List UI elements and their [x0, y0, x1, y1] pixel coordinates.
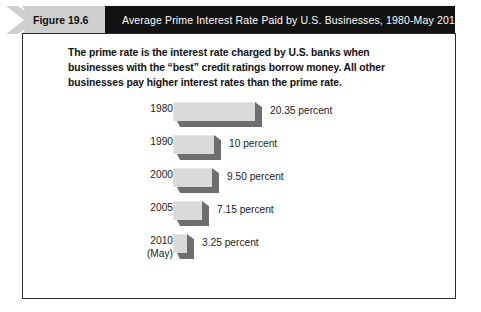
figure-container: Average Prime Interest Rate Paid by U.S.… [0, 0, 481, 312]
row-year-line1: 2010 [150, 235, 173, 246]
intro-paragraph: The prime rate is the interest rate char… [68, 45, 416, 91]
row-year-line2: (May) [113, 247, 173, 260]
bar-bottom-face [177, 253, 194, 259]
row-value-label: 10 percent [229, 138, 277, 149]
row-value-label: 9.50 percent [227, 171, 284, 182]
figure-header: Average Prime Interest Rate Paid by U.S.… [0, 6, 481, 34]
figure-tag-label: Figure 19.6 [33, 6, 88, 34]
bar-side-face [202, 201, 209, 220]
bar-graphic [173, 234, 194, 260]
figure-title: Average Prime Interest Rate Paid by U.S.… [122, 6, 461, 34]
row-year-line1: 1980 [150, 103, 173, 114]
bar-graphic [173, 201, 209, 227]
row-year-label: 2010 (May) [113, 234, 173, 260]
bar-front-face [173, 201, 202, 220]
bar-side-face [187, 234, 194, 253]
bar-side-face [214, 135, 221, 154]
row-year-label: 1990 [113, 135, 173, 148]
row-year-line1: 2005 [150, 202, 173, 213]
bar-side-face [255, 102, 262, 121]
bar-front-face [173, 135, 214, 154]
bar-graphic [173, 168, 219, 194]
figure-panel: The prime rate is the interest rate char… [22, 33, 456, 299]
row-value-label: 7.15 percent [217, 204, 274, 215]
chart-row: 2005 7.15 percent [23, 201, 457, 234]
row-year-line1: 2000 [150, 169, 173, 180]
chart-row: 2010 (May) 3.25 percent [23, 234, 457, 267]
row-year-label: 2005 [113, 201, 173, 214]
chart-row: 2000 9.50 percent [23, 168, 457, 201]
bar-bottom-face [177, 121, 262, 127]
chart-row: 1990 10 percent [23, 135, 457, 168]
row-year-label: 1980 [113, 102, 173, 115]
row-value-label: 3.25 percent [202, 237, 259, 248]
bar-chart: 1980 20.35 percent 1990 10 per [23, 102, 457, 267]
chart-row: 1980 20.35 percent [23, 102, 457, 135]
row-year-label: 2000 [113, 168, 173, 181]
bar-side-face [212, 168, 219, 187]
bar-front-face [173, 234, 187, 253]
bar-bottom-face [177, 187, 219, 193]
bar-graphic [173, 102, 262, 128]
row-year-line1: 1990 [150, 136, 173, 147]
bar-graphic [173, 135, 221, 161]
bar-front-face [173, 168, 212, 187]
bar-bottom-face [177, 154, 221, 160]
bar-bottom-face [177, 220, 209, 226]
bar-front-face [173, 102, 255, 121]
row-value-label: 20.35 percent [270, 105, 332, 116]
